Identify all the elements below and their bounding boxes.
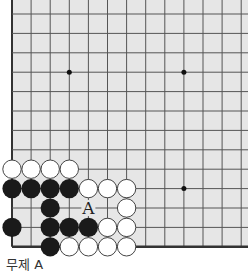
white-stone <box>117 218 135 236</box>
black-stone <box>2 218 21 237</box>
black-stone <box>22 179 41 198</box>
white-stone <box>79 238 97 256</box>
white-stone <box>60 238 78 256</box>
black-stone <box>60 179 79 198</box>
white-stone <box>3 160 21 178</box>
caption: 무제 A <box>6 258 43 271</box>
black-stone <box>60 218 79 237</box>
black-stone <box>79 218 98 237</box>
point-label-a: A <box>81 198 95 218</box>
white-stone <box>117 179 135 197</box>
white-stone <box>117 238 135 256</box>
hoshi-point <box>67 70 72 75</box>
white-stone <box>98 218 116 236</box>
hoshi-point <box>181 186 186 191</box>
black-stone <box>2 179 21 198</box>
white-stone <box>22 160 40 178</box>
white-stone <box>41 160 59 178</box>
white-stone <box>60 160 78 178</box>
black-stone <box>41 179 60 198</box>
hoshi-point <box>181 70 186 75</box>
black-stone <box>41 218 60 237</box>
black-stone <box>41 198 60 217</box>
white-stone <box>117 199 135 217</box>
white-stone <box>98 179 116 197</box>
white-stone <box>98 238 116 256</box>
white-stone <box>79 179 97 197</box>
black-stone <box>41 237 60 256</box>
